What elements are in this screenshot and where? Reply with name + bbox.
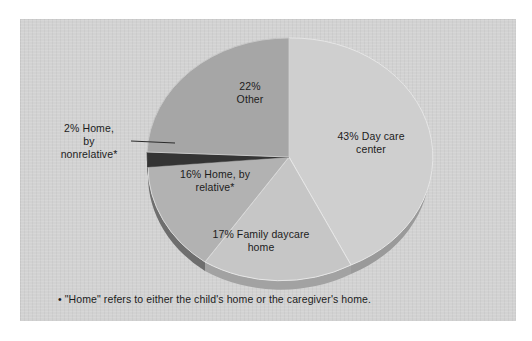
slice-label-family-daycare-home: 17% Family daycare home bbox=[196, 228, 326, 254]
figure-container: 43% Day care center 22% Other 16% Home, … bbox=[0, 0, 532, 341]
slice-label-daycare-center: 43% Day care center bbox=[316, 130, 426, 156]
slice-label-other: 22% Other bbox=[200, 80, 300, 106]
slice-label-home-by-nonrelative: 2% Home, by nonrelative* bbox=[44, 122, 134, 161]
slice-label-home-by-relative: 16% Home, by relative* bbox=[152, 168, 278, 194]
chart-footnote: • "Home" refers to either the child's ho… bbox=[58, 292, 478, 306]
